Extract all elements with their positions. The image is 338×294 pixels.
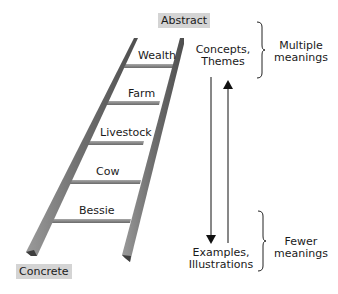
- rung-wealth: [124, 64, 176, 68]
- rung-label-farm: Farm: [128, 87, 155, 100]
- illustrations-line: Illustrations: [186, 259, 256, 271]
- rung-bessie: [46, 219, 131, 223]
- meanings-line-bottom: meanings: [268, 248, 334, 260]
- rung-label-cow: Cow: [96, 165, 119, 178]
- multiple-meanings-label: Multiple meanings: [268, 40, 334, 64]
- up-arrow: [223, 80, 233, 243]
- rung-label-bessie: Bessie: [79, 204, 115, 217]
- abstract-label: Abstract: [158, 13, 210, 28]
- rung-label-livestock: Livestock: [100, 126, 152, 139]
- meanings-line-top: meanings: [268, 52, 334, 64]
- rung-cow: [65, 180, 141, 184]
- fewer-meanings-label: Fewer meanings: [268, 236, 334, 260]
- examples-illustrations-label: Examples, Illustrations: [186, 247, 256, 271]
- themes-line: Themes: [193, 56, 253, 68]
- rung-farm: [105, 101, 160, 105]
- concepts-themes-label: Concepts, Themes: [193, 44, 253, 68]
- brace-bottom-icon: [258, 211, 266, 271]
- down-arrow: [206, 77, 216, 244]
- right-rail: [122, 38, 184, 262]
- brace-top-icon: [257, 22, 265, 78]
- rung-livestock: [85, 141, 144, 145]
- concrete-label: Concrete: [16, 264, 72, 279]
- left-rail: [26, 38, 138, 256]
- rung-label-wealth: Wealth: [138, 49, 176, 62]
